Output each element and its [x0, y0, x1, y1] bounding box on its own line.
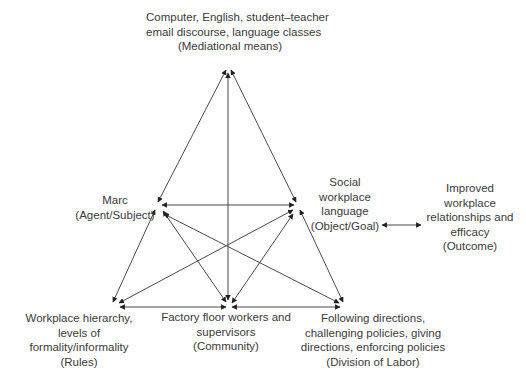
node-text-line: Following directions,	[300, 311, 446, 326]
node-object: Social workplace language (Object/Goal)	[300, 175, 390, 233]
edge-object-community	[232, 214, 293, 303]
node-text-line: formality/informality	[20, 340, 138, 355]
edge-subject-community	[163, 211, 226, 302]
node-text-line: (Division of Labor)	[300, 355, 446, 370]
edge-mediation-subject	[158, 70, 226, 202]
node-text-line: (Rules)	[20, 355, 138, 370]
node-text-line: Marc	[65, 193, 165, 208]
node-text-line: supervisors	[160, 325, 292, 340]
node-text-line: directions, enforcing policies	[300, 340, 446, 355]
node-text-line: (Outcome)	[420, 239, 520, 254]
node-text-line: levels of	[20, 326, 138, 341]
edge-object-rules	[119, 210, 293, 303]
node-text-line: language	[300, 204, 390, 219]
node-text-line: workplace	[420, 196, 520, 211]
node-community: Factory floor workers and supervisors (C…	[160, 310, 292, 354]
node-text-line: (Community)	[160, 339, 292, 354]
node-text-line: efficacy	[420, 225, 520, 240]
node-text-line: (Mediational means)	[146, 39, 314, 54]
node-text-line: Workplace hierarchy,	[20, 311, 138, 326]
node-mediational-means: Computer, English, student–teacher email…	[146, 10, 314, 54]
node-rules: Workplace hierarchy, levels of formality…	[20, 311, 138, 369]
node-text-line: challenging policies, giving	[300, 326, 446, 341]
node-text-line: email discourse, language classes	[146, 25, 314, 40]
node-text-line: Social	[300, 175, 390, 190]
edge-subject-rules	[113, 210, 155, 302]
node-division-of-labor: Following directions, challenging polici…	[300, 311, 446, 369]
node-text-line: workplace	[300, 190, 390, 205]
node-text-line: relationships and	[420, 210, 520, 225]
edge-mediation-object	[231, 70, 296, 202]
node-text-line: Computer, English, student–teacher	[146, 10, 314, 25]
node-text-line: (Object/Goal)	[300, 219, 390, 234]
node-outcome: Improved workplace relationships and eff…	[420, 181, 520, 254]
node-subject: Marc (Agent/Subject)	[65, 193, 165, 222]
node-text-line: Improved	[420, 181, 520, 196]
node-text-line: (Agent/Subject)	[65, 208, 165, 223]
node-text-line: Factory floor workers and	[160, 310, 292, 325]
